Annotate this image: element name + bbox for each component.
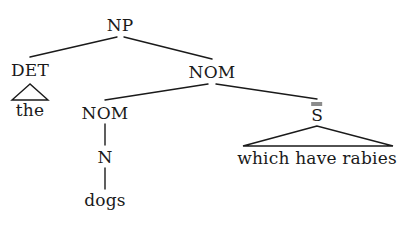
np-to-det	[30, 37, 117, 57]
terminal-dogs: dogs	[84, 192, 126, 209]
det-triangle	[12, 84, 48, 100]
terminal-relative-clause: which have rabies	[237, 150, 397, 167]
elision-triangles	[12, 84, 393, 146]
node-nom-lower: NOM	[82, 105, 129, 122]
node-det: DET	[11, 62, 49, 79]
nom-to-sbar	[216, 84, 317, 99]
sbar-triangle	[243, 126, 393, 146]
np-to-nom	[124, 37, 212, 59]
terminal-the: the	[16, 102, 44, 119]
node-s-double-bar: S	[311, 103, 323, 124]
tree-lines-layer	[0, 0, 415, 227]
syntax-tree-figure: NP DET the NOM NOM N dogs S which have r…	[0, 0, 415, 227]
nom-to-nom	[105, 84, 208, 100]
node-np: NP	[107, 17, 134, 34]
node-n: N	[97, 149, 112, 166]
node-nom-upper: NOM	[189, 64, 236, 81]
node-s-letter: S	[311, 107, 323, 124]
